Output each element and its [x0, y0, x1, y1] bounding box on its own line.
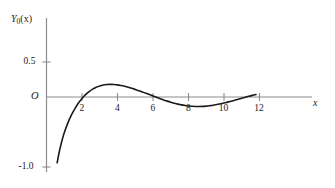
x-tick-label: 10	[219, 104, 229, 114]
x-tick-label: 12	[254, 104, 264, 114]
x-tick-label: 4	[115, 104, 120, 114]
x-axis-label: x	[313, 98, 317, 108]
bessel-y0-figure: Y0(x) O x 24681012 0.5-1.0	[0, 0, 335, 188]
y-axis-label: Y0(x)	[11, 14, 32, 26]
y-axis-label-argument: (x)	[20, 13, 32, 24]
x-tick-label: 8	[186, 104, 191, 114]
y-tick-label: 0.5	[24, 57, 36, 67]
x-tick-label: 2	[79, 104, 84, 114]
plot-canvas	[0, 0, 335, 188]
y-tick-label: -1.0	[19, 162, 34, 172]
origin-label: O	[31, 91, 39, 102]
y0-curve	[57, 84, 256, 162]
x-tick-label: 6	[150, 104, 155, 114]
